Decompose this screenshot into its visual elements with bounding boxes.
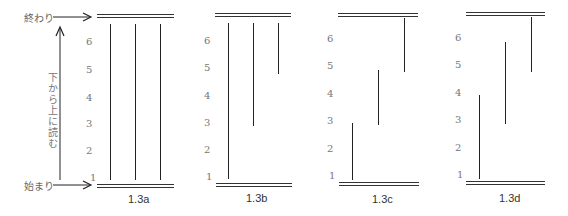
tick-1: 1 bbox=[329, 170, 335, 181]
tick-4: 4 bbox=[327, 88, 333, 99]
tick-2: 2 bbox=[455, 142, 461, 153]
tick-6: 6 bbox=[204, 35, 210, 46]
line bbox=[531, 17, 532, 72]
line bbox=[228, 23, 229, 179]
start-bar bbox=[216, 183, 292, 187]
tick-1: 1 bbox=[457, 169, 463, 180]
start-bar bbox=[339, 182, 419, 186]
line bbox=[378, 70, 379, 125]
tick-2: 2 bbox=[327, 143, 333, 154]
tick-3: 3 bbox=[204, 117, 210, 128]
tick-5: 5 bbox=[86, 64, 92, 75]
caption: 1.3d bbox=[499, 192, 520, 204]
caption: 1.3b bbox=[246, 192, 267, 204]
end-bar bbox=[338, 13, 418, 17]
line bbox=[479, 95, 480, 179]
arrows-icon bbox=[0, 0, 100, 216]
end-bar bbox=[215, 13, 291, 17]
line bbox=[352, 123, 353, 180]
tick-1: 1 bbox=[206, 171, 212, 182]
end-bar bbox=[466, 12, 545, 16]
tick-4: 4 bbox=[455, 87, 461, 98]
end-bar bbox=[97, 14, 174, 18]
tick-5: 5 bbox=[455, 59, 461, 70]
start-bar bbox=[466, 181, 545, 185]
tick-4: 4 bbox=[86, 92, 92, 103]
line bbox=[160, 24, 161, 180]
tick-6: 6 bbox=[327, 33, 333, 44]
tick-5: 5 bbox=[327, 60, 333, 71]
tick-5: 5 bbox=[204, 62, 210, 73]
line bbox=[278, 23, 279, 74]
tick-2: 2 bbox=[86, 145, 92, 156]
tick-3: 3 bbox=[327, 115, 333, 126]
caption: 1.3c bbox=[372, 193, 393, 205]
tick-3: 3 bbox=[455, 114, 461, 125]
line bbox=[404, 18, 405, 72]
tick-3: 3 bbox=[86, 118, 92, 129]
line bbox=[505, 42, 506, 124]
line bbox=[110, 24, 111, 180]
line bbox=[253, 23, 254, 126]
start-bar bbox=[97, 184, 174, 188]
tick-2: 2 bbox=[204, 144, 210, 155]
line bbox=[135, 24, 136, 180]
tick-6: 6 bbox=[86, 36, 92, 47]
tick-1: 1 bbox=[90, 172, 96, 183]
tick-4: 4 bbox=[204, 90, 210, 101]
caption: 1.3a bbox=[128, 193, 149, 205]
tick-6: 6 bbox=[455, 32, 461, 43]
